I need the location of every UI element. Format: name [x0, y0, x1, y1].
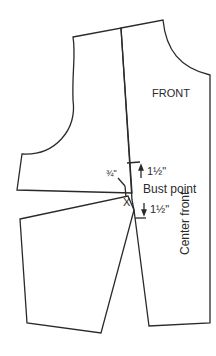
- dart-measure-label: ¾": [106, 168, 117, 178]
- upper-measure-label: 1½": [147, 165, 166, 177]
- lower-arrowhead: [142, 210, 146, 215]
- lower-side-piece-outline: [20, 196, 134, 333]
- pattern-diagram: [0, 0, 216, 356]
- center-front-label: Center front: [178, 192, 192, 255]
- lower-measure-label: 1½": [150, 203, 169, 215]
- x-mark-label: X: [123, 196, 130, 208]
- upper-arrowhead: [139, 165, 143, 170]
- dart-arrow: [118, 178, 125, 186]
- front-label: FRONT: [152, 87, 190, 99]
